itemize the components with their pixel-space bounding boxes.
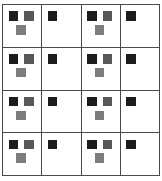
square-medium-gray-bottom-center	[95, 68, 105, 78]
grid-cell-r3-c4[interactable]	[121, 91, 159, 133]
grid-cell-r2-c1[interactable]	[3, 48, 41, 90]
square-medium-gray-bottom-center	[16, 111, 26, 121]
square-dark-gray-top-right	[24, 140, 34, 150]
grid-cell-r1-c2[interactable]	[42, 5, 80, 47]
grid-cell-r3-c1[interactable]	[3, 91, 41, 133]
square-medium-gray-bottom-center	[16, 153, 26, 163]
square-dark-gray-top-right	[24, 11, 34, 21]
square-black-top-left	[9, 97, 19, 107]
square-medium-gray-bottom-center	[95, 25, 105, 35]
grid-cell-r2-c4[interactable]	[121, 48, 159, 90]
canvas	[0, 0, 162, 181]
square-black-top-left	[126, 140, 136, 150]
grid-cell-r2-c3[interactable]	[82, 48, 120, 90]
square-black-top-left	[87, 54, 97, 64]
square-black-top-left	[126, 11, 136, 21]
square-black-top-left	[48, 140, 58, 150]
square-medium-gray-bottom-center	[95, 111, 105, 121]
grid-cell-r1-c1[interactable]	[3, 5, 41, 47]
square-black-top-left	[48, 54, 58, 64]
grid-cell-r4-c1[interactable]	[3, 133, 41, 175]
square-black-top-left	[9, 140, 19, 150]
grid-cell-r1-c3[interactable]	[82, 5, 120, 47]
grid-cell-r1-c4[interactable]	[121, 5, 159, 47]
grid-cell-r4-c3[interactable]	[82, 133, 120, 175]
grid-cell-r4-c4[interactable]	[121, 133, 159, 175]
square-dark-gray-top-right	[24, 54, 34, 64]
square-black-top-left	[87, 11, 97, 21]
square-black-top-left	[126, 97, 136, 107]
square-dark-gray-top-right	[103, 54, 113, 64]
square-dark-gray-top-right	[103, 97, 113, 107]
square-black-top-left	[87, 97, 97, 107]
square-medium-gray-bottom-center	[95, 153, 105, 163]
square-medium-gray-bottom-center	[16, 25, 26, 35]
square-black-top-left	[87, 140, 97, 150]
square-dark-gray-top-right	[103, 11, 113, 21]
square-dark-gray-top-right	[103, 140, 113, 150]
grid-cell-r3-c3[interactable]	[82, 91, 120, 133]
square-black-top-left	[9, 54, 19, 64]
square-black-top-left	[48, 11, 58, 21]
square-dark-gray-top-right	[24, 97, 34, 107]
grid-cell-r3-c2[interactable]	[42, 91, 80, 133]
square-black-top-left	[9, 11, 19, 21]
square-black-top-left	[48, 97, 58, 107]
pattern-grid	[2, 4, 160, 176]
square-medium-gray-bottom-center	[16, 68, 26, 78]
grid-cell-r4-c2[interactable]	[42, 133, 80, 175]
square-black-top-left	[126, 54, 136, 64]
grid-cell-r2-c2[interactable]	[42, 48, 80, 90]
